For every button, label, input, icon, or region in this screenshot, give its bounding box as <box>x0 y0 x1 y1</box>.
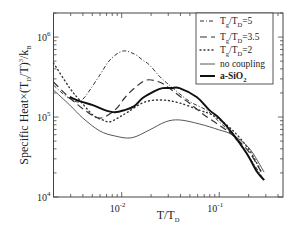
y-tick-label: 106 <box>37 30 51 43</box>
legend: Tg/TD=5Tg/TD=3.5Tg/TD=2no couplinga-SiO2 <box>196 13 273 84</box>
y-tick-label: 104 <box>37 190 51 203</box>
x-axis-title: T/TD <box>157 208 180 223</box>
y-tick-label: 105 <box>37 110 51 123</box>
legend-label-no-coupling: no coupling <box>220 59 265 69</box>
series-line-a-sio2 <box>70 87 264 180</box>
x-tick-label: 10-2 <box>110 201 126 214</box>
y-axis-title: Specific Heat×(TD/T)3/kB <box>17 45 32 165</box>
chart: 10-210-1104105106 T/TD Specific Heat×(TD… <box>0 0 303 237</box>
x-tick-label: 10-1 <box>207 201 223 214</box>
